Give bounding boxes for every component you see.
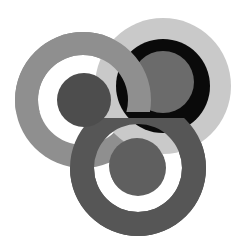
- bottom-center-dot-top: [109, 138, 165, 194]
- rings-svg: [0, 0, 250, 252]
- left-center-dot: [57, 73, 111, 127]
- top-right-target: [95, 18, 231, 154]
- interlocking-rings-graphic: [0, 0, 250, 252]
